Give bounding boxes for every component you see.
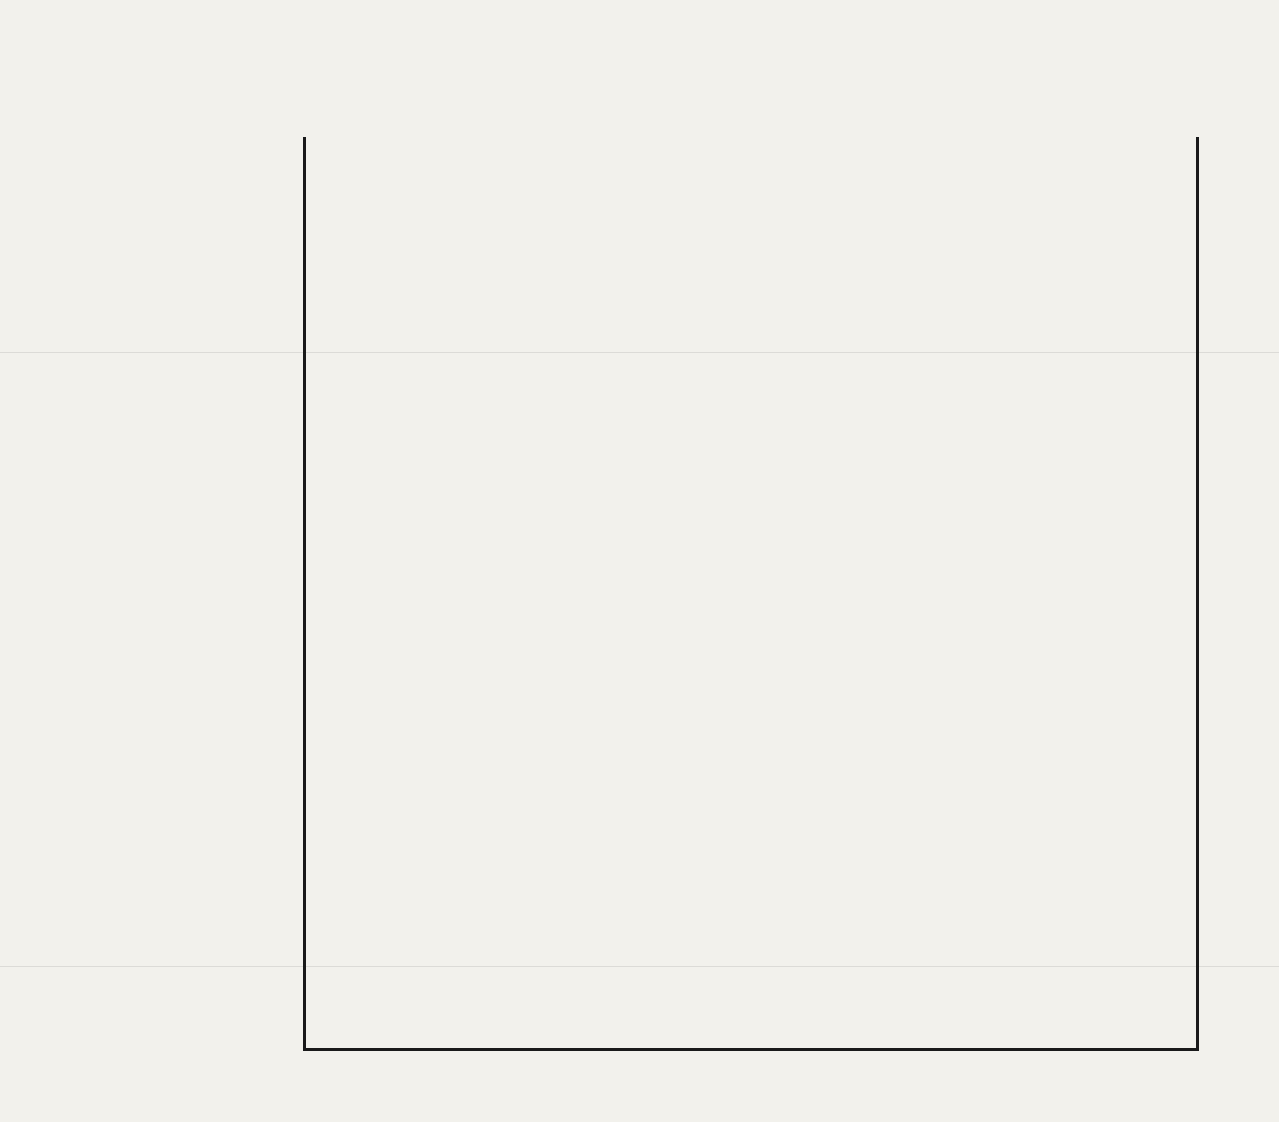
x-axis: [303, 113, 1199, 137]
axis-frame: [303, 137, 1199, 1051]
plot-area: [303, 137, 1199, 1051]
chart-page: [0, 0, 1279, 1122]
y-axis-category-labels: [0, 137, 288, 1051]
